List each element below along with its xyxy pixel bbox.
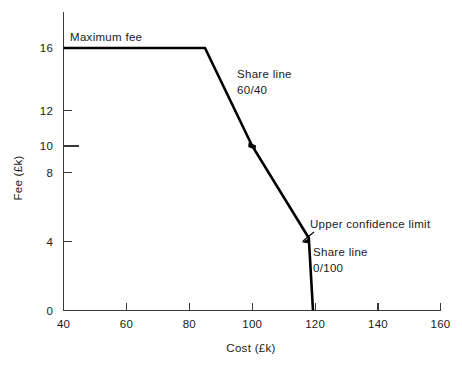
y-tick-label-4: 4: [46, 236, 53, 248]
annotation-upper-confidence-limit-label: Upper confidence limit: [310, 218, 431, 230]
annotation-share-line-60-40-label-1: Share line: [237, 68, 292, 80]
x-tick-marks: [64, 303, 441, 311]
annotation-share-line-0-100: Share line 0/100: [313, 246, 368, 274]
chart-canvas: 40 60 80 100 120 140 160 0 4 8 10 12 16 …: [0, 0, 462, 368]
x-tick-label-140: 140: [368, 318, 388, 330]
fee-schedule-line: [64, 48, 314, 311]
y-tick-label-0: 0: [46, 305, 53, 317]
annotation-share-line-0-100-label-2: 0/100: [313, 262, 343, 274]
x-axis-title: Cost (£k): [226, 342, 275, 354]
y-tick-label-10: 10: [40, 140, 53, 152]
annotation-upper-confidence-limit: Upper confidence limit: [302, 218, 431, 243]
x-tick-label-80: 80: [183, 318, 196, 330]
annotation-share-line-0-100-label-1: Share line: [313, 246, 368, 258]
annotation-share-line-60-40-label-2: 60/40: [237, 84, 267, 96]
y-tick-labels: 0 4 8 10 12 16: [40, 42, 54, 317]
y-axis-title: Fee (£k): [12, 155, 24, 200]
y-tick-label-16: 16: [40, 42, 53, 54]
x-tick-label-120: 120: [305, 318, 325, 330]
annotation-share-line-60-40: Share line 60/40: [237, 68, 292, 96]
x-tick-label-160: 160: [431, 318, 451, 330]
x-tick-label-60: 60: [120, 318, 133, 330]
axis-group: [63, 12, 441, 311]
y-tick-label-8: 8: [46, 167, 53, 179]
x-tick-labels: 40 60 80 100 120 140 160: [57, 318, 451, 330]
y-tick-marks: [64, 48, 79, 311]
x-tick-label-40: 40: [57, 318, 70, 330]
x-tick-label-100: 100: [242, 318, 262, 330]
annotation-maximum-fee: Maximum fee: [70, 31, 142, 43]
chart-figure: 40 60 80 100 120 140 160 0 4 8 10 12 16 …: [0, 0, 462, 368]
annotation-maximum-fee-label: Maximum fee: [70, 31, 142, 43]
y-tick-label-12: 12: [40, 105, 53, 117]
